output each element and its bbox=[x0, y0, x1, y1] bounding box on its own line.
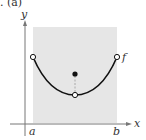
filled-point bbox=[72, 71, 77, 76]
open-endpoint-right bbox=[114, 54, 119, 59]
graph bbox=[0, 0, 146, 140]
open-endpoint-left bbox=[30, 54, 35, 59]
interval-label-b: b bbox=[113, 126, 120, 137]
function-label-f: f bbox=[122, 52, 126, 63]
part-label: . (a) bbox=[0, 0, 22, 8]
y-axis-label: y bbox=[21, 9, 27, 20]
interval-label-a: a bbox=[29, 126, 36, 137]
open-minimum-point bbox=[72, 92, 77, 97]
x-axis-arrow-icon bbox=[126, 122, 132, 126]
x-axis-label: x bbox=[134, 118, 140, 129]
